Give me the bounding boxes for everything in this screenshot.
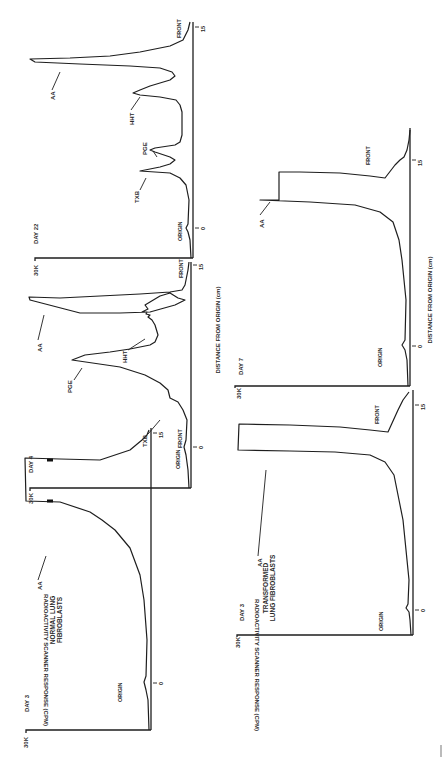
- x-tick-0-p2: 0: [198, 446, 204, 449]
- page-mark: [440, 745, 442, 757]
- front-label-p3: FRONT: [176, 18, 182, 38]
- y-axis-tick-30k: [26, 730, 151, 733]
- y-max-p4: 30K: [235, 636, 241, 648]
- x-tick-15-p4: 15: [420, 404, 426, 410]
- day-label-p1: DAY 3: [24, 694, 30, 712]
- figure-canvas: RADIOACTIVITY SCANNER RESPONSE (CPM) RAD…: [0, 0, 446, 770]
- origin-label-p2: ORIGIN: [175, 449, 181, 469]
- day-label-p5: DAY 7: [238, 357, 244, 375]
- pge2-label-p2: PGE: [67, 380, 73, 393]
- day-label-p3: DAY 22: [33, 223, 39, 244]
- front-label-p5: FRONT: [365, 145, 371, 165]
- x-axis-label-transformed: DISTANCE FROM ORIGIN (cm): [427, 257, 433, 344]
- y-max-p5: 30K: [236, 387, 242, 399]
- origin-label-p5: ORIGIN: [377, 347, 383, 367]
- x-tick-0-p5: 0: [417, 345, 423, 348]
- y-max-p3: 30K: [33, 264, 39, 276]
- aa-label-p4: AA: [257, 558, 263, 567]
- day-label-p2: DAY 4: [28, 455, 34, 473]
- panel-transformed-day7: [235, 128, 416, 388]
- pge2-label-p3: PGE: [142, 142, 148, 155]
- trace: [30, 22, 191, 258]
- panel-normal-day22: [30, 22, 199, 261]
- y-max-p2: 30K: [28, 492, 34, 504]
- front-label-p1: FRONT: [177, 428, 183, 448]
- aa-label-p5: AA: [259, 219, 265, 228]
- x-tick-15-p5: 15: [417, 160, 423, 166]
- x-tick-15-p3: 15: [200, 26, 206, 32]
- group-label-transformed-1: TRANSFORMED: [262, 562, 269, 613]
- aa-label-p1: AA: [37, 581, 43, 590]
- x-tick-15-p2: 15: [198, 264, 204, 270]
- origin-label-p1: ORIGIN: [117, 682, 123, 702]
- origin-label-p3: ORIGIN: [177, 221, 183, 241]
- y-max-p1: 30K: [23, 736, 29, 748]
- origin-label-p4: ORIGIN: [378, 611, 384, 631]
- x-axis-label-normal: DISTANCE FROM ORIGIN (cm): [215, 287, 221, 374]
- x-tick-0-p4: 0: [420, 609, 426, 612]
- panel-normal-day4: [29, 262, 197, 491]
- txb2-label-p2: TXB: [142, 434, 148, 447]
- day-label-p4: DAY 3: [239, 603, 245, 621]
- x-tick-0-p3: 0: [200, 227, 206, 230]
- x-tick-0-p1: 0: [158, 682, 164, 685]
- hht-label-p2: HHT: [122, 350, 128, 363]
- hht-label-p3: HHT: [129, 112, 135, 125]
- front-label-p4: FRONT: [374, 404, 380, 424]
- group-label-normal-2: FIBROBLASTS: [56, 596, 63, 643]
- trace: [29, 262, 189, 488]
- group-label-normal-1: NORMAL LUNG: [49, 596, 56, 645]
- group-label-transformed-2: LUNG FIBROBLASTS: [269, 554, 276, 621]
- y-axis-label-transformed: RADIOACTIVITY SCANNER RESPONSE (CPM): [254, 599, 260, 731]
- aa-label-p2: AA: [37, 343, 43, 352]
- txb2-label-p3: TXB: [134, 190, 140, 203]
- trace: [260, 130, 410, 386]
- aa-label-p3: AA: [50, 91, 56, 100]
- x-tick-15-p1: 15: [158, 432, 164, 438]
- front-label-p2: FRONT: [178, 258, 184, 278]
